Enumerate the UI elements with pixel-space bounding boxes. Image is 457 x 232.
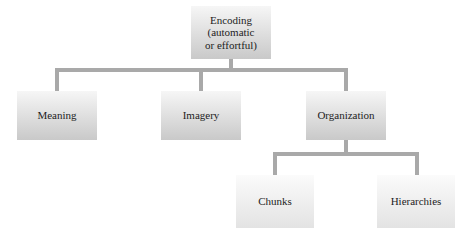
node-imagery-label: Imagery (183, 109, 220, 122)
node-hierarchies: Hierarchies (377, 175, 455, 228)
node-encoding-label: Encoding (automatic or effortful) (205, 14, 257, 52)
node-hierarchies-label: Hierarchies (391, 195, 442, 208)
connector-meaning-drop (55, 68, 59, 91)
node-meaning-label: Meaning (37, 109, 76, 122)
connector-hierarchies-drop (415, 152, 419, 175)
node-chunks: Chunks (236, 175, 314, 228)
node-chunks-label: Chunks (258, 195, 292, 208)
node-organization: Organization (306, 91, 386, 140)
connector-organization-drop (344, 68, 348, 91)
connector-chunks-drop (273, 152, 277, 175)
connector-imagery-drop (199, 68, 203, 91)
node-encoding: Encoding (automatic or effortful) (191, 6, 271, 59)
node-organization-label: Organization (317, 109, 374, 122)
connector-level2-bar (273, 152, 419, 156)
node-meaning: Meaning (17, 91, 97, 140)
node-imagery: Imagery (161, 91, 241, 140)
